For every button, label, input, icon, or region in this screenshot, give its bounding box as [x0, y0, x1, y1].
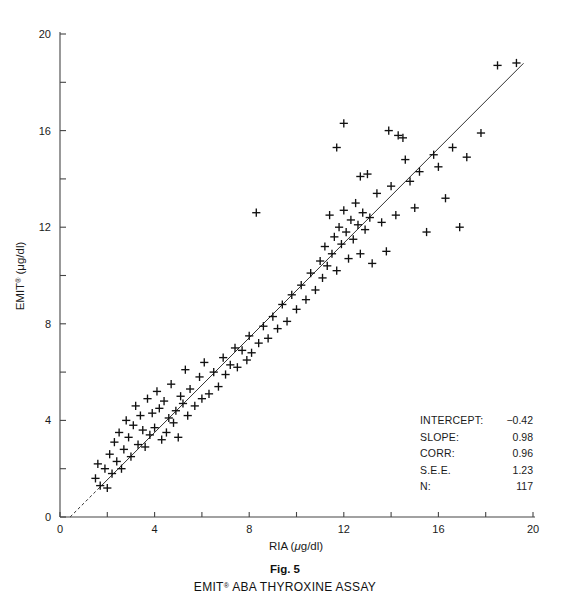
y-tick-label: 4	[45, 414, 51, 426]
statistics-row: INTERCEPT:−0.42	[420, 414, 533, 426]
y-tick-label: 0	[45, 511, 51, 523]
statistics-label: SLOPE:	[420, 431, 459, 443]
x-tick-label: 12	[338, 523, 350, 535]
y-tick-label: 16	[39, 125, 51, 137]
statistics-label: N:	[420, 480, 431, 492]
statistics-label: INTERCEPT:	[420, 414, 483, 426]
x-tick-label: 4	[152, 523, 158, 535]
figure-container: 048121620 048121620 RIA (μg/dl) EMIT® (μ…	[0, 0, 570, 608]
x-tick-label: 8	[246, 523, 252, 535]
x-axis-title: RIA (μg/dl)	[269, 540, 323, 552]
statistics-label: CORR:	[420, 447, 455, 459]
x-tick-label: 16	[432, 523, 444, 535]
figure-caption: EMIT® ABA THYROXINE ASSAY	[194, 580, 376, 594]
x-tick-label: 20	[527, 523, 539, 535]
x-tick-label: 0	[57, 523, 63, 535]
statistics-value: −0.42	[506, 414, 533, 426]
statistics-value: 1.23	[513, 464, 534, 476]
y-tick-label: 20	[39, 28, 51, 40]
statistics-label: S.E.E.	[420, 464, 451, 476]
figure-number: Fig. 5	[270, 563, 301, 575]
statistics-value: 117	[516, 480, 533, 492]
statistics-value: 0.96	[513, 447, 534, 459]
y-axis-title: EMIT® (μg/dl)	[14, 241, 26, 310]
scatter-plot: 048121620 048121620 RIA (μg/dl) EMIT® (μ…	[0, 0, 570, 608]
y-tick-label: 8	[45, 318, 51, 330]
y-tick-label: 12	[39, 221, 51, 233]
statistics-value: 0.98	[513, 431, 534, 443]
